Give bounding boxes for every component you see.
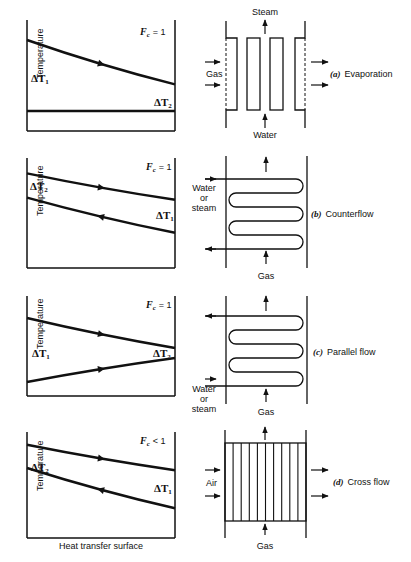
schematic-c-gas-label: Gas [258,407,275,417]
schematic-c-inlet-label: Water [192,384,216,394]
panel-a: Temperature Fc= 1 ΔT1 ΔT2 Steam Gas Wate… [27,7,393,140]
plot-b-fc-label: Fc= 1 [145,161,172,174]
panel-d: Temperature Fc< 1 ΔT2 ΔT1 Heat transfer … [27,427,390,551]
plot-b: Temperature Fc= 1 ΔT2 ΔT1 [27,158,175,268]
plot-c-y-label: Temperature [35,298,45,349]
plot-a-fc-label: Fc= 1 [139,26,166,39]
serpentine-tube [205,316,303,386]
schematic-d-air-label: Air [206,478,217,488]
schematic-b-inlet-label: Water [192,183,216,193]
panel-d-caption: (d)Cross flow [333,477,390,487]
plot-b-delta-right: ΔT1 [156,209,174,223]
plot-c-delta-left: ΔT1 [32,347,50,361]
schematic-b-inlet-label: steam [192,203,217,213]
plot-x-label: Heat transfer surface [59,541,143,551]
plot-c-fc-label: Fc= 1 [145,299,172,312]
plot-b-delta-left: ΔT2 [30,180,48,194]
plot-a-delta-left: ΔT1 [31,72,49,86]
schematic-b: Water or steam Gas (b)Counterflow [192,156,374,281]
panel-b: Temperature Fc= 1 ΔT2 ΔT1 Water or steam… [27,156,374,281]
schematic-c-inlet-label: steam [192,404,217,414]
plot-d-delta-left: ΔT2 [31,461,49,475]
plot-d-delta-right: ΔT1 [154,482,172,496]
panel-c: Temperature Fc= 1 ΔT1 ΔT2 Water or steam… [27,296,376,417]
schematic-b-gas-label: Gas [258,271,275,281]
plot-d-fc-label: Fc< 1 [139,435,166,448]
schematic-c-inlet-label: or [200,394,208,404]
schematic-a-water-label: Water [253,130,277,140]
schematic-d: Air Gas (d)Cross flow [205,427,390,551]
schematic-a-steam-label: Steam [252,7,278,17]
schematic-b-inlet-label: or [200,193,208,203]
panel-b-caption: (b)Counterflow [311,209,374,219]
plot-c: Temperature Fc= 1 ΔT1 ΔT2 [27,296,175,396]
plot-c-delta-right: ΔT2 [153,347,171,361]
serpentine-tube [205,179,303,249]
plot-a-delta-right: ΔT2 [154,96,172,110]
tube-bank-lines [233,443,298,521]
panel-a-caption: (a)Evaporation [330,69,393,79]
schematic-c: Water or steam Gas (c)Parallel flow [192,296,376,417]
schematic-d-gas-label: Gas [257,541,274,551]
schematic-a: Steam Gas Water (a)Evaporation [205,7,393,140]
schematic-a-gas-label: Gas [206,69,223,79]
panel-c-caption: (c)Parallel flow [313,347,376,357]
heat-exchanger-figure: Temperature Fc= 1 ΔT1 ΔT2 Steam Gas Wate… [0,0,411,562]
plot-a: Temperature Fc= 1 ΔT1 ΔT2 [27,20,175,131]
plot-d: Temperature Fc< 1 ΔT2 ΔT1 Heat transfer … [27,432,175,551]
